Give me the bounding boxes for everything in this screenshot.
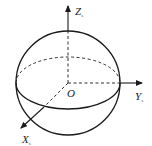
origin-label: O	[67, 87, 75, 99]
x-axis	[21, 107, 44, 128]
x-axis-inner	[44, 83, 68, 107]
y-axis-label: Ys	[135, 90, 143, 103]
z-axis-label: Zs	[75, 5, 83, 18]
x-axis-label: Xs	[21, 133, 31, 146]
sphere-diagram: Zs Ys Xs O	[0, 0, 152, 146]
